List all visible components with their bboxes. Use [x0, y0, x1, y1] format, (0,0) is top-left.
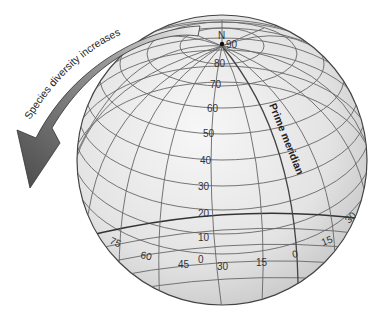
lon-label-15: 15	[256, 257, 268, 268]
lat-label-40: 40	[200, 155, 212, 166]
lat-label-80: 80	[214, 58, 226, 69]
lat-label-70: 70	[210, 79, 222, 90]
lat-label-90: 90	[226, 39, 238, 50]
lat-label-50: 50	[203, 128, 215, 139]
lat-label-60: 60	[207, 103, 219, 114]
lat-label-30: 30	[198, 181, 210, 192]
north-pole-dot	[220, 42, 224, 46]
lon-label-45: 45	[178, 259, 190, 270]
lat-label-20: 20	[198, 208, 210, 219]
pole-label: N	[218, 30, 225, 41]
lat-label-0: 0	[198, 254, 204, 265]
lon-label-30: 30	[217, 261, 229, 272]
globe-diagram: N 90 80 70 60 50 40 30 20 10 0 75 60 45 …	[0, 0, 377, 323]
lat-label-10: 10	[198, 232, 210, 243]
